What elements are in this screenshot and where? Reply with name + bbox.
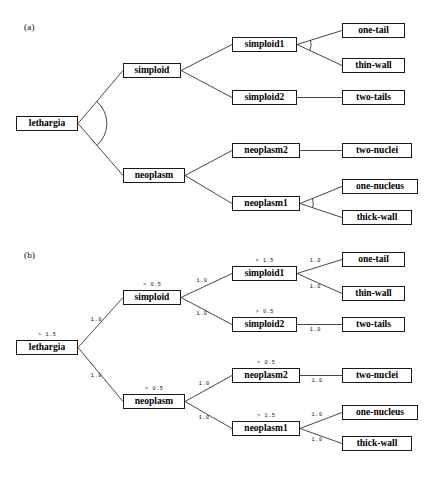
tree-edge	[185, 376, 232, 402]
tree-edge	[185, 176, 232, 204]
tree-node-lethargia[interactable]: lethargia	[16, 116, 78, 131]
tree-edge	[78, 124, 123, 176]
tree-node-two-tails[interactable]: two-tails	[342, 90, 405, 105]
tree-node-simploid1[interactable]: simploid1	[232, 266, 297, 281]
edge-weight-label: 1.0	[311, 437, 322, 443]
node-threshold-label: > 0.5	[257, 360, 276, 366]
edge-weight-label: 1.0	[311, 378, 322, 384]
tree-node-simploid2[interactable]: simploid2	[232, 317, 297, 332]
node-threshold-label: > 0.5	[256, 309, 275, 315]
tree-node-simploid[interactable]: simploid	[123, 63, 181, 78]
tree-node-neoplasm[interactable]: neoplasm	[123, 168, 185, 183]
node-threshold-label: > 1.5	[38, 332, 57, 338]
tree-node-neoplasm1[interactable]: neoplasm1	[232, 196, 300, 211]
tree-edge	[181, 71, 232, 98]
tree-node-one-nucleus[interactable]: one-nucleus	[342, 179, 418, 194]
tree-edge	[300, 187, 342, 204]
edge-weight-label: 1.0	[91, 373, 102, 379]
tree-node-neoplasm2[interactable]: neoplasm2	[232, 368, 300, 383]
branch-angle-arc	[97, 101, 107, 145]
tree-node-neoplasm2[interactable]: neoplasm2	[232, 143, 300, 158]
node-threshold-label: > 1.5	[257, 413, 276, 419]
node-threshold-label: > 0.5	[145, 386, 164, 392]
tree-edge	[78, 71, 123, 124]
edge-weight-label: 1.0	[311, 412, 322, 418]
edge-weight-label: 1.0	[310, 327, 321, 333]
tree-node-thick-wall[interactable]: thick-wall	[342, 210, 412, 225]
tree-node-two-nuclei[interactable]: two-nuclei	[342, 368, 412, 383]
edge-weight-label: 1.0	[199, 381, 210, 387]
panel-a-tree: (a) lethargiasimploidneoplasmsimploid1si…	[0, 0, 437, 244]
branch-angle-arc	[312, 199, 313, 208]
edge-weight-label: 1.0	[199, 415, 210, 421]
tree-node-one-tail[interactable]: one-tail	[342, 252, 405, 267]
tree-node-one-nucleus[interactable]: one-nucleus	[342, 405, 418, 420]
tree-node-lethargia[interactable]: lethargia	[16, 340, 78, 355]
edge-weight-label: 1.0	[196, 278, 207, 284]
tree-edge	[185, 151, 232, 176]
tree-node-two-tails[interactable]: two-tails	[342, 317, 405, 332]
panel-b-tree: (b) 1.01.01.01.01.01.01.01.01.01.01.01.0…	[0, 244, 437, 487]
node-threshold-label: > 0.5	[143, 282, 162, 288]
tree-node-thin-wall[interactable]: thin-wall	[342, 58, 405, 73]
branch-angle-arc	[310, 40, 311, 50]
edge-weight-label: 1.0	[91, 317, 102, 323]
tree-edge	[297, 45, 342, 66]
edge-weight-label: 1.0	[310, 284, 321, 290]
tree-edge	[300, 204, 342, 218]
tree-node-neoplasm1[interactable]: neoplasm1	[232, 421, 300, 436]
tree-node-simploid2[interactable]: simploid2	[232, 90, 297, 105]
tree-edge	[78, 298, 123, 348]
edge-weight-label: 1.0	[310, 258, 321, 264]
tree-edge	[297, 31, 342, 45]
tree-node-one-tail[interactable]: one-tail	[342, 23, 405, 38]
edge-weight-label: 1.0	[196, 311, 207, 317]
node-threshold-label: > 1.5	[256, 258, 275, 264]
tree-node-two-nuclei[interactable]: two-nuclei	[342, 143, 412, 158]
tree-node-neoplasm[interactable]: neoplasm	[123, 394, 185, 409]
tree-node-simploid[interactable]: simploid	[123, 290, 181, 305]
tree-node-thick-wall[interactable]: thick-wall	[342, 436, 412, 451]
tree-node-thin-wall[interactable]: thin-wall	[342, 286, 405, 301]
tree-node-simploid1[interactable]: simploid1	[232, 37, 297, 52]
tree-edge	[181, 45, 232, 71]
